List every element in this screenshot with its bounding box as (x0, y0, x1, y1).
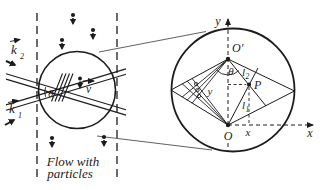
theta-label-right: θ (228, 65, 234, 77)
caption-line2: particles (46, 166, 93, 181)
particle-dot (71, 13, 75, 17)
point-P-dot (247, 82, 251, 86)
figure-canvas: k2 k1 θ v Flow with particles y x O′ O P… (0, 0, 320, 190)
flow-particle (50, 136, 54, 147)
particle-dot (60, 38, 64, 42)
k1-direction-arrow (5, 120, 14, 125)
envelope-line-L-Oprime (171, 59, 228, 90)
k1-label: k1 (9, 101, 22, 120)
x-axis-label: x (306, 126, 313, 140)
x-coordinate-label: x (245, 126, 251, 138)
particle-dot-center (78, 77, 82, 81)
beam-line (182, 59, 228, 97)
theta-label-left: θ (48, 87, 54, 99)
k2-direction-arrow (6, 61, 15, 65)
magnifier-connector-top (99, 32, 206, 53)
beam-to-Oprime (182, 59, 228, 103)
theta-arc-left (45, 87, 46, 97)
point-Oprime-dot (226, 57, 230, 61)
coordinate-axes (228, 19, 313, 151)
beam-line (182, 84, 228, 125)
envelope-line-O-R (228, 91, 295, 125)
flow-particle (71, 13, 75, 24)
origin-prime-label: O′ (232, 41, 244, 55)
particle-dot (91, 28, 95, 32)
origin-label: O (224, 129, 233, 143)
beam-k2-edge-lower (6, 79, 126, 115)
particle-dot (50, 136, 54, 140)
k2-label: k2 (11, 42, 24, 61)
left-panel (5, 13, 126, 177)
velocity-label: v (86, 83, 92, 95)
flow-particles (50, 13, 106, 147)
flow-particle (91, 28, 95, 39)
right-panel (171, 19, 313, 152)
y-axis-label: y (214, 14, 221, 28)
l1-label: l1 (242, 99, 249, 114)
point-O-dot (226, 123, 230, 127)
beam-to-O (182, 78, 228, 125)
flow-particle (60, 38, 64, 49)
diagram-svg: k2 k1 θ v Flow with particles y x O′ O P… (0, 0, 320, 190)
y-coordinate-label: y (207, 85, 213, 97)
point-P-label: P (253, 78, 262, 92)
